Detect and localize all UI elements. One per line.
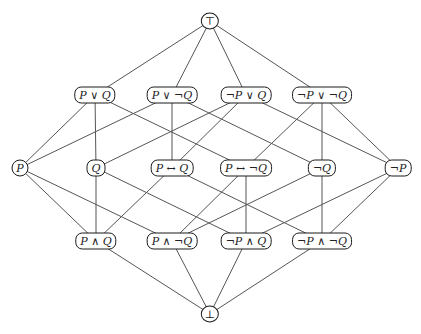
edge-NPandQ-bot <box>210 241 246 314</box>
node-NP: ¬P <box>385 160 412 177</box>
node-NPorQ: ¬P ∨ Q <box>221 87 272 104</box>
node-NQ: ¬Q <box>308 160 336 177</box>
edge-NPorQ-PiffQ <box>172 95 246 168</box>
edge-PiffQ-PandQ <box>96 168 172 241</box>
edge-PiffNQ-PandNQ <box>172 168 246 241</box>
node-Q: Q <box>86 160 105 177</box>
edge-Q-NPandQ <box>96 168 246 241</box>
edge-NPorNQ-NP <box>322 95 398 168</box>
node-PiffNQ: P ↔ ¬Q <box>220 160 272 177</box>
node-NPandNQ: ¬P ∧ ¬Q <box>292 233 352 250</box>
edge-top-PorNQ <box>172 21 210 95</box>
node-PandNQ: P ∧ ¬Q <box>147 233 198 250</box>
edge-NP-NPandNQ <box>322 168 398 241</box>
edge-PandQ-bot <box>96 241 210 314</box>
node-PorQ: P ∨ Q <box>74 87 115 104</box>
node-NPorNQ: ¬P ∨ ¬Q <box>292 87 352 104</box>
edge-PorNQ-NQ <box>172 95 322 168</box>
node-PandQ: P ∧ Q <box>75 233 116 250</box>
edge-P-PandQ <box>20 168 96 241</box>
edge-PandNQ-bot <box>172 241 210 314</box>
edge-top-NPorQ <box>210 21 246 95</box>
edge-NPandNQ-bot <box>210 241 322 314</box>
edge-PorQ-P <box>20 95 95 168</box>
node-PiffQ: P ↔ Q <box>151 160 194 177</box>
edge-NPorNQ-PiffNQ <box>246 95 322 168</box>
edge-top-PorQ <box>95 21 210 95</box>
hasse-diagram: ⊤P ∨ QP ∨ ¬Q¬P ∨ Q¬P ∨ ¬QPQP ↔ QP ↔ ¬Q¬Q… <box>0 0 421 334</box>
node-P: P <box>12 160 29 177</box>
node-NPandQ: ¬P ∧ Q <box>221 233 272 250</box>
node-PorNQ: P ∨ ¬Q <box>147 87 198 104</box>
diagram-edges <box>0 0 421 334</box>
edge-top-NPorNQ <box>210 21 322 95</box>
